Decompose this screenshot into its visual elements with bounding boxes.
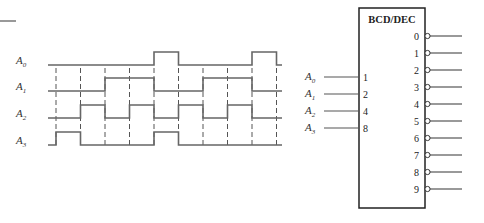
inversion-bubble-icon: [425, 67, 430, 72]
decoder-input-weight: 8: [363, 123, 368, 134]
inversion-bubble-icon: [425, 135, 430, 140]
decoder-output-number: 3: [414, 82, 419, 93]
decoder-output-number: 8: [414, 167, 419, 178]
signal-label-a1: A1: [15, 80, 26, 95]
decoder-input-weight: 2: [363, 89, 368, 100]
decoder-input-label: A1: [304, 87, 315, 102]
decoder-output-number: 0: [414, 31, 419, 42]
decoder-output-number: 2: [414, 65, 419, 76]
inversion-bubble-icon: [425, 169, 430, 174]
signal-label-a2: A2: [15, 107, 27, 122]
decoder-input-label: A0: [304, 70, 316, 85]
decoder-outputs: 0123456789: [414, 31, 462, 195]
inversion-bubble-icon: [425, 101, 430, 106]
decoder-output-number: 1: [414, 48, 419, 59]
decoder-output-number: 7: [414, 150, 419, 161]
signal-label-a3: A3: [15, 134, 27, 149]
inversion-bubble-icon: [425, 152, 430, 157]
clock-grid-lines: [56, 68, 277, 146]
decoder-title: BCD/DEC: [368, 14, 415, 25]
decoder-output-number: 4: [414, 99, 419, 110]
inversion-bubble-icon: [425, 33, 430, 38]
decoder-output-number: 9: [414, 184, 419, 195]
signal-labels: A0A1A2A3: [15, 54, 27, 149]
waveform-a2: [48, 105, 282, 118]
decoder-input-weight: 1: [363, 72, 368, 83]
decoder-output-number: 6: [414, 133, 419, 144]
decoder-input-weight: 4: [363, 106, 368, 117]
waveform-a0: [48, 52, 282, 65]
diagram-canvas: A0A1A2A3 BCD/DEC A01A12A24A38 0123456789: [0, 0, 484, 223]
inversion-bubble-icon: [425, 50, 430, 55]
waveform-a3: [48, 132, 282, 145]
timing-diagram: A0A1A2A3: [15, 52, 282, 149]
signal-label-a0: A0: [15, 54, 27, 69]
inversion-bubble-icon: [425, 186, 430, 191]
inversion-bubble-icon: [425, 84, 430, 89]
waveform-a1: [48, 78, 282, 91]
bcd-decoder: BCD/DEC A01A12A24A38 0123456789: [304, 8, 462, 208]
inversion-bubble-icon: [425, 118, 430, 123]
waveforms: [48, 52, 282, 145]
decoder-output-number: 5: [414, 116, 419, 127]
decoder-input-label: A2: [304, 104, 316, 119]
decoder-input-label: A3: [304, 121, 316, 136]
